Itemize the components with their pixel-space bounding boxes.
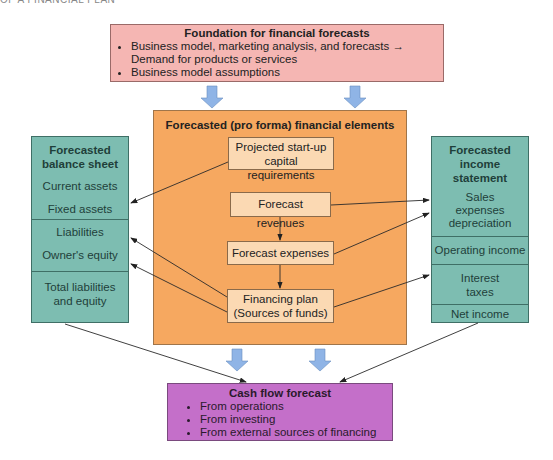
connector-arrow: [331, 200, 429, 205]
connector-arrow: [340, 323, 478, 382]
connector-arrow: [131, 162, 228, 203]
block-arrow-down-icon: [309, 349, 331, 371]
block-arrow-down-icon: [201, 86, 223, 108]
connector-arrow: [334, 275, 429, 307]
block-arrow-down-icon: [226, 349, 248, 371]
connector-arrow: [334, 213, 429, 254]
connector-layer: [0, 0, 553, 460]
connector-arrow: [65, 324, 246, 382]
block-arrow-down-icon: [344, 86, 366, 108]
